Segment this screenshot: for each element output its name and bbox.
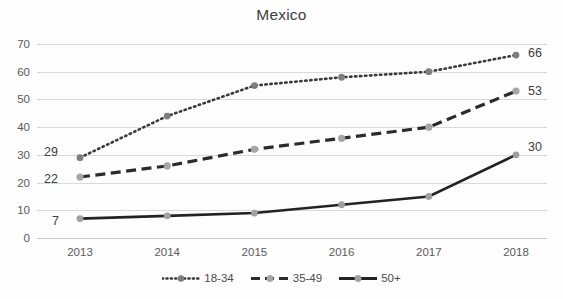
y-axis-tick-50: 50	[4, 93, 30, 105]
y-axis-tick-70: 70	[4, 38, 30, 50]
x-axis-tick-2014: 2014	[137, 246, 197, 258]
line-chart: Mexico 70 60 50 40 30 20 10 0 2013 2014 …	[0, 0, 563, 299]
x-axis-tick-2018: 2018	[486, 246, 546, 258]
gridline-30	[37, 155, 547, 156]
legend-item-35-49[interactable]: 35-49	[251, 272, 322, 284]
x-axis-tick-2017: 2017	[399, 246, 459, 258]
legend-swatch-50plus	[339, 273, 377, 284]
y-axis-tick-60: 60	[4, 66, 30, 78]
y-axis-tick-0: 0	[4, 232, 30, 244]
page-title: Mexico	[0, 6, 563, 24]
y-axis-tick-10: 10	[4, 204, 30, 216]
gridline-0	[37, 238, 547, 239]
legend-label-18-34: 18-34	[204, 272, 233, 284]
y-axis-tick-30: 30	[4, 149, 30, 161]
legend-swatch-18-34	[162, 273, 200, 284]
x-axis-tick-2015: 2015	[224, 246, 284, 258]
value-label-35-49-last: 53	[528, 84, 542, 98]
x-axis-tick-2013: 2013	[50, 246, 110, 258]
value-label-18-34-last: 66	[528, 46, 542, 60]
plot-area	[37, 44, 547, 238]
legend-label-50plus: 50+	[381, 272, 401, 284]
value-label-18-34-first: 29	[44, 145, 58, 159]
legend-item-50plus[interactable]: 50+	[339, 272, 401, 284]
gridline-60	[37, 72, 547, 73]
gridline-50	[37, 99, 547, 100]
legend-swatch-35-49	[251, 273, 289, 284]
gridline-40	[37, 127, 547, 128]
legend-label-35-49: 35-49	[293, 272, 322, 284]
value-label-50plus-first: 7	[52, 214, 59, 228]
y-axis-tick-20: 20	[4, 177, 30, 189]
legend: 18-34 35-49 50+	[0, 272, 563, 284]
gridline-10	[37, 210, 547, 211]
value-label-35-49-first: 22	[44, 172, 58, 186]
legend-item-18-34[interactable]: 18-34	[162, 272, 233, 284]
x-axis-tick-2016: 2016	[312, 246, 372, 258]
gridline-20	[37, 183, 547, 184]
value-label-50plus-last: 30	[528, 140, 542, 154]
gridline-70	[37, 44, 547, 45]
y-axis-tick-40: 40	[4, 121, 30, 133]
